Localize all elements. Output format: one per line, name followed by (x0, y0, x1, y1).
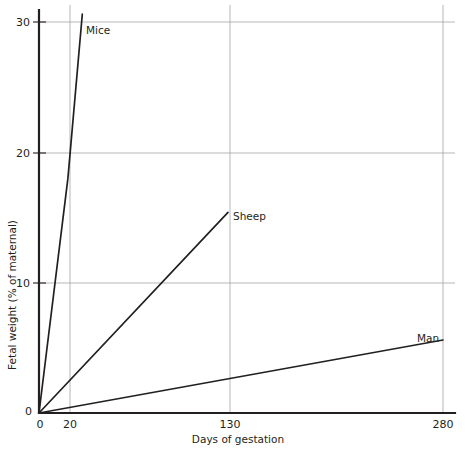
y-tick-label-30: 30 (16, 16, 30, 29)
series-label-mice: Mice (86, 24, 110, 36)
y-tick-label-0: 0 (25, 405, 32, 418)
x-tick-label-130: 130 (220, 418, 241, 431)
y-axis-title: Fetal weight (% of maternal) (6, 220, 18, 370)
series-label-sheep: Sheep (233, 210, 266, 222)
series-label-man: Man (417, 332, 439, 344)
series-line-mice (39, 14, 82, 413)
y-tick-label-10: 10 (16, 277, 30, 290)
x-axis-title: Days of gestation (192, 433, 284, 445)
y-tick-label-20: 20 (16, 147, 30, 160)
x-tick-label-280: 280 (433, 418, 454, 431)
x-tick-label-0: 0 (37, 418, 44, 431)
chart-plot-area: 30 20 10 0 0 20 130 280 Days of gestatio… (0, 0, 470, 453)
x-tick-label-20: 20 (63, 418, 77, 431)
fetal-weight-gestation-chart: 30 20 10 0 0 20 130 280 Days of gestatio… (0, 0, 470, 453)
series-line-man (39, 340, 443, 413)
series-line-sheep (39, 212, 228, 413)
